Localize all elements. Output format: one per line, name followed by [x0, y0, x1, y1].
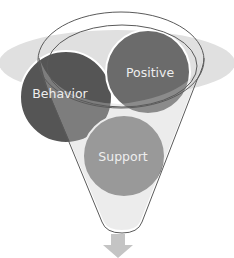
label-positive: Positive [126, 65, 174, 80]
down-arrow-icon [103, 234, 133, 258]
label-support: Support [98, 149, 148, 164]
label-behavior: Behavior [32, 86, 88, 101]
funnel-diagram: Behavior Positive Support [0, 0, 234, 258]
